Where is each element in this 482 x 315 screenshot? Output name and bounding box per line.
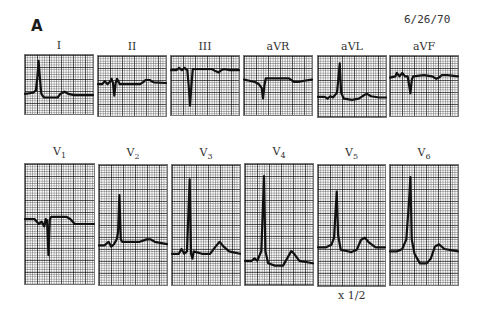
ecg-waveform	[244, 56, 312, 115]
ecg-waveform	[172, 165, 240, 285]
ecg-grid-paper	[170, 55, 240, 116]
recording-date: 6/26/70	[404, 13, 450, 26]
lead-panel-v1: V1	[24, 150, 95, 285]
ecg-grid-paper	[317, 55, 387, 118]
ecg-grid-paper	[243, 55, 313, 116]
lead-subscript: 6	[425, 152, 430, 161]
lead-title: aVL	[317, 41, 387, 53]
lead-title: V5	[317, 147, 386, 163]
ecg-waveform	[245, 164, 313, 285]
lead-panel-ii: II	[97, 42, 167, 117]
lead-subscript: 4	[280, 151, 285, 160]
lead-subscript: 2	[134, 152, 139, 161]
ecg-grid-paper	[24, 163, 95, 285]
lead-panel-avf: aVF	[389, 42, 459, 117]
ecg-waveform	[25, 164, 94, 284]
lead-name: V	[345, 146, 353, 159]
ecg-grid-paper	[97, 55, 167, 117]
scale-note: x 1/2	[338, 289, 365, 302]
lead-panel-v4: V4	[244, 150, 314, 286]
lead-name: aVF	[413, 40, 435, 53]
lead-name: II	[128, 40, 137, 53]
lead-panel-i: I	[24, 41, 94, 115]
ecg-waveform	[171, 56, 239, 115]
lead-title: aVF	[389, 41, 459, 53]
lead-title: aVR	[243, 41, 313, 53]
lead-name: V	[53, 145, 61, 158]
figure-label: A	[31, 17, 43, 35]
lead-title: V4	[244, 146, 314, 162]
ecg-waveform	[390, 56, 458, 116]
lead-panel-v5: V5	[317, 151, 386, 287]
ecg-grid-paper	[389, 55, 459, 117]
ecg-waveform	[99, 165, 167, 285]
lead-title: V2	[98, 147, 168, 163]
lead-name: aVR	[267, 40, 290, 53]
lead-panel-v3: V3	[171, 151, 241, 286]
lead-title: I	[24, 40, 94, 52]
lead-title: V1	[24, 146, 95, 162]
lead-panel-avl: aVL	[317, 42, 387, 118]
ecg-grid-paper	[389, 164, 459, 286]
lead-name: I	[57, 39, 61, 52]
ecg-waveform	[318, 165, 385, 286]
ecg-grid-paper	[98, 164, 168, 286]
ecg-grid-paper	[24, 54, 94, 115]
ecg-grid-paper	[171, 164, 241, 286]
ecg-waveform	[98, 56, 166, 116]
ecg-grid-paper	[317, 164, 386, 287]
lead-subscript: 3	[207, 152, 212, 161]
ecg-waveform	[390, 165, 458, 285]
lead-title: V3	[171, 147, 241, 163]
lead-title: III	[170, 41, 240, 53]
lead-panel-avr: aVR	[243, 42, 313, 116]
lead-title: V6	[389, 147, 459, 163]
lead-title: II	[97, 41, 167, 53]
lead-name: III	[198, 40, 211, 53]
lead-name: aVL	[341, 40, 363, 53]
ecg-waveform	[318, 56, 386, 117]
lead-panel-v2: V2	[98, 151, 168, 286]
lead-panel-iii: III	[170, 42, 240, 116]
ecg-grid-paper	[244, 163, 314, 286]
ecg-waveform	[25, 55, 93, 114]
lead-subscript: 1	[61, 151, 66, 160]
lead-panel-v6: V6	[389, 151, 459, 286]
lead-subscript: 5	[353, 152, 358, 161]
